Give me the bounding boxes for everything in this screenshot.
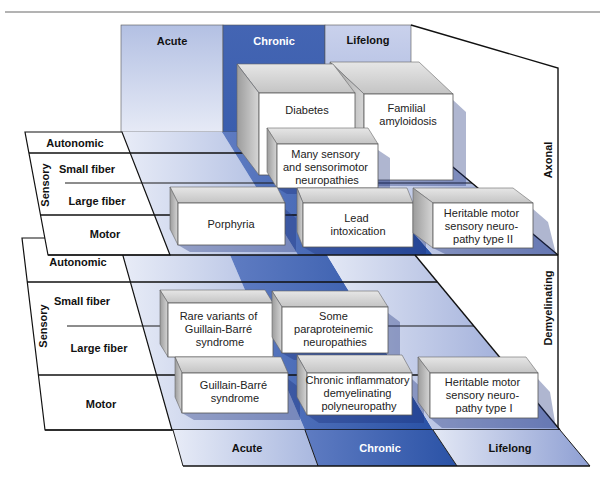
demyelinating-boxes: Rare variants of Guillain-Barré syndrome… — [160, 290, 556, 428]
box-rare-variants-gbs[interactable]: Rare variants of Guillain-Barré syndrome — [160, 290, 273, 357]
demyelinating-motor-label: Motor — [86, 398, 117, 410]
neuropathy-classification-diagram: Acute Chronic Lifelong Familial amyloido… — [0, 0, 611, 482]
box-guillain-barre[interactable]: Guillain-Barré syndrome — [175, 357, 300, 420]
front-acute-label: Acute — [232, 442, 263, 454]
box-text: Heritable motor sensory neuro- pathy typ… — [445, 376, 523, 414]
demyelinating-large-fiber-label: Large fiber — [71, 342, 129, 354]
back-chronic-label: Chronic — [253, 35, 295, 47]
box-heritable-type-i[interactable]: Heritable motor sensory neuro- pathy typ… — [418, 357, 556, 428]
box-text: Many sensory and sensorimotor neuropathi… — [283, 148, 371, 186]
axonal-small-fiber-label: Small fiber — [59, 163, 116, 175]
box-cidp[interactable]: Chronic inflammatory demyelinating polyn… — [297, 355, 424, 423]
box-lead-intoxication[interactable]: Lead intoxication — [297, 188, 426, 254]
front-chronic-label: Chronic — [359, 442, 401, 454]
box-text: Heritable motor sensory neuro- pathy typ… — [444, 207, 522, 245]
axonal-large-fiber-label: Large fiber — [69, 195, 127, 207]
front-time-band: Acute Chronic Lifelong — [173, 430, 590, 466]
axonal-sensory-label: Sensory — [39, 162, 51, 206]
back-acute-label: Acute — [157, 35, 188, 47]
axonal-level-label: Axonal — [542, 142, 554, 179]
demyelinating-small-fiber-label: Small fiber — [54, 295, 111, 307]
box-paraproteinemic-neuropathies[interactable]: Some paraproteinemic neuropathies — [272, 291, 400, 360]
box-porphyria[interactable]: Porphyria — [170, 187, 296, 252]
box-text: Porphyria — [207, 218, 255, 230]
demyelinating-autonomic-label: Autonomic — [49, 256, 106, 268]
demyelinating-sensory-label: Sensory — [37, 303, 49, 347]
front-lifelong-label: Lifelong — [489, 442, 532, 454]
box-text: Diabetes — [285, 104, 329, 116]
axonal-autonomic-label: Autonomic — [46, 137, 103, 149]
box-heritable-type-ii[interactable]: Heritable motor sensory neuro- pathy typ… — [413, 188, 556, 254]
demyelinating-level-label: Demyelinating — [542, 270, 554, 345]
box-many-sensory-neuropathies[interactable]: Many sensory and sensorimotor neuropathi… — [267, 128, 390, 194]
axonal-motor-label: Motor — [90, 228, 121, 240]
back-lifelong-label: Lifelong — [347, 34, 390, 46]
